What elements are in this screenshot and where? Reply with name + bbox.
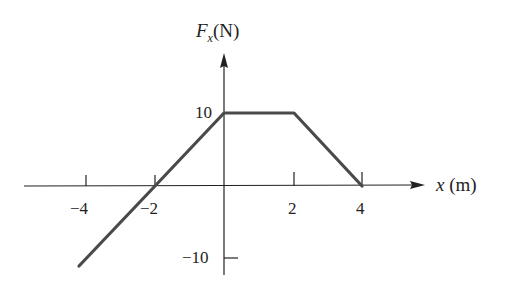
x-tick-label: −4 [70, 199, 88, 219]
y-axis-label: Fx(N) [196, 20, 239, 46]
y-label-unit: (N) [213, 20, 239, 41]
force-curve [79, 113, 362, 266]
x-axis-arrow-icon [410, 181, 425, 189]
x-axis [24, 185, 415, 186]
x-axis-label: x (m) [436, 174, 477, 196]
x-tick-label: −2 [140, 199, 158, 219]
y-axis-arrow-icon [220, 53, 228, 68]
x-tick-label: 2 [288, 199, 297, 219]
x-tick-label: 4 [356, 199, 365, 219]
y-tick-label: 10 [195, 103, 212, 123]
y-tick-label: −10 [182, 248, 209, 268]
x-label-unit: (m) [449, 174, 476, 195]
y-label-var: F [196, 20, 208, 41]
x-label-var: x [436, 174, 444, 195]
chart-canvas [0, 0, 511, 287]
